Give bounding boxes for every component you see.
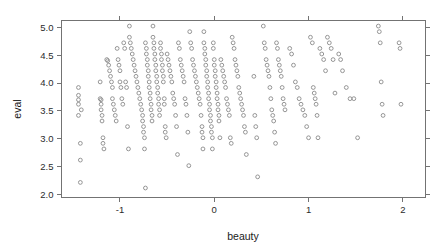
data-point	[276, 58, 280, 62]
data-point	[276, 47, 280, 51]
data-point	[256, 175, 260, 179]
data-point	[318, 47, 322, 51]
data-point	[312, 91, 316, 95]
data-point	[99, 108, 103, 112]
data-point	[194, 74, 198, 78]
data-point	[111, 97, 115, 101]
data-point	[243, 130, 247, 134]
data-point	[288, 47, 292, 51]
data-point	[356, 136, 360, 140]
data-point	[128, 41, 132, 45]
data-point	[153, 58, 157, 62]
data-point	[379, 80, 383, 84]
data-point	[316, 136, 320, 140]
data-point	[196, 91, 200, 95]
data-point	[242, 114, 246, 118]
data-point	[303, 114, 307, 118]
x-tick-label: 0	[212, 204, 217, 215]
data-point	[219, 58, 223, 62]
data-point	[153, 52, 157, 56]
x-tick-label: 1	[306, 204, 311, 215]
data-point	[149, 108, 153, 112]
data-point	[214, 86, 218, 90]
data-point	[381, 114, 385, 118]
data-point	[206, 80, 210, 84]
data-point	[226, 102, 230, 106]
data-point	[207, 97, 211, 101]
data-point	[181, 74, 185, 78]
data-point	[146, 69, 150, 73]
data-point	[236, 74, 240, 78]
data-point	[224, 86, 228, 90]
data-point	[163, 130, 167, 134]
data-point	[100, 114, 104, 118]
data-point	[130, 52, 134, 56]
data-point	[183, 97, 187, 101]
data-point	[125, 86, 129, 90]
y-axis-tick-labels: 2.02.53.03.54.04.55.0	[40, 22, 53, 201]
data-point	[127, 24, 131, 28]
data-point	[194, 80, 198, 84]
data-point	[131, 58, 135, 62]
y-tick-label: 3.5	[40, 105, 53, 116]
data-point	[271, 114, 275, 118]
data-point	[233, 58, 237, 62]
data-point	[265, 63, 269, 67]
data-point	[220, 63, 224, 67]
data-point	[295, 86, 299, 90]
data-point	[313, 97, 317, 101]
data-point	[273, 130, 277, 134]
data-point	[377, 30, 381, 34]
data-point	[138, 97, 142, 101]
data-point	[203, 52, 207, 56]
data-point	[244, 153, 248, 157]
data-point	[164, 136, 168, 140]
data-point	[143, 136, 147, 140]
data-point	[117, 63, 121, 67]
data-point	[141, 119, 145, 123]
data-point	[322, 58, 326, 62]
data-point	[293, 80, 297, 84]
data-point	[204, 58, 208, 62]
data-point	[136, 86, 140, 90]
data-point	[108, 69, 112, 73]
data-point	[231, 41, 235, 45]
data-point	[202, 41, 206, 45]
data-point	[101, 136, 105, 140]
data-point	[148, 97, 152, 101]
data-point	[193, 69, 197, 73]
data-point	[101, 141, 105, 145]
data-point	[297, 97, 301, 101]
y-tick-label: 4.0	[40, 77, 53, 88]
data-point	[173, 102, 177, 106]
data-point	[331, 58, 335, 62]
data-point	[157, 102, 161, 106]
data-point	[114, 119, 118, 123]
data-point	[280, 86, 284, 90]
data-point	[218, 136, 222, 140]
data-point	[142, 125, 146, 129]
data-point	[168, 69, 172, 73]
data-point	[290, 52, 294, 56]
data-point	[261, 24, 265, 28]
data-point	[267, 74, 271, 78]
data-point	[339, 58, 343, 62]
data-point	[116, 58, 120, 62]
data-point	[178, 58, 182, 62]
data-point	[255, 136, 259, 140]
data-point	[315, 114, 319, 118]
y-tick-label: 2.5	[40, 161, 53, 172]
data-point	[200, 130, 204, 134]
data-point	[172, 97, 176, 101]
x-tick-label: 2	[400, 204, 405, 215]
y-tick-label: 2.0	[40, 189, 53, 200]
scatter-plot-figure: -1012 2.02.53.03.54.04.55.0 beauty eval	[0, 0, 448, 252]
data-point	[111, 86, 115, 90]
data-point	[210, 125, 214, 129]
data-point	[197, 97, 201, 101]
data-point	[139, 102, 143, 106]
data-point	[208, 108, 212, 112]
data-point	[155, 74, 159, 78]
data-point	[184, 102, 188, 106]
data-point	[329, 47, 333, 51]
